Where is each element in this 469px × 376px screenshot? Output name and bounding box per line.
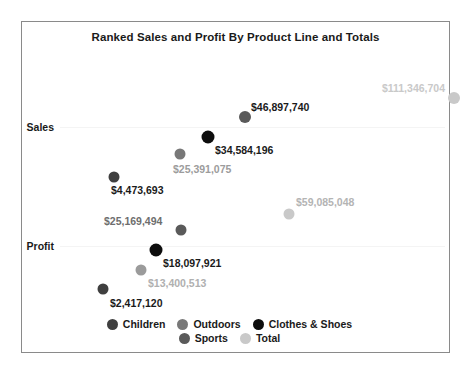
axis-label-profit: Profit — [22, 240, 54, 252]
data-point[interactable] — [448, 92, 460, 104]
data-point[interactable] — [284, 209, 295, 220]
axis-label-sales: Sales — [22, 121, 54, 133]
data-point-label: $18,097,921 — [163, 257, 221, 269]
data-point[interactable] — [176, 225, 187, 236]
legend-label: Total — [256, 332, 280, 344]
chart-container: Ranked Sales and Profit By Product Line … — [21, 21, 450, 353]
legend-item-children[interactable]: Children — [107, 318, 166, 330]
data-point-label: $2,417,120 — [110, 297, 163, 309]
data-point[interactable] — [202, 131, 215, 144]
legend-label: Outdoors — [193, 318, 240, 330]
data-point-label: $59,085,048 — [296, 196, 354, 208]
data-point[interactable] — [136, 265, 147, 276]
data-point[interactable] — [239, 111, 251, 123]
plot-area: SalesProfit$46,897,740$111,346,704$34,58… — [22, 22, 449, 352]
legend-swatch-circle-icon — [177, 319, 188, 330]
data-point-label: $25,169,494 — [104, 215, 162, 227]
legend-item-outdoors[interactable]: Outdoors — [177, 318, 240, 330]
data-point[interactable] — [98, 284, 109, 295]
data-point-label: $4,473,693 — [111, 184, 164, 196]
legend-swatch-circle-icon — [240, 333, 251, 344]
data-point-label: $111,346,704 — [382, 82, 445, 94]
data-point-label: $34,584,196 — [215, 144, 273, 156]
data-point-label: $46,897,740 — [251, 101, 309, 113]
legend-label: Children — [123, 318, 166, 330]
data-point-label: $25,391,075 — [173, 163, 231, 175]
legend-item-clothes-shoes[interactable]: Clothes & Shoes — [253, 318, 352, 330]
legend-label: Clothes & Shoes — [269, 318, 352, 330]
data-point[interactable] — [175, 149, 186, 160]
legend-label: Sports — [195, 332, 228, 344]
gridline-sales — [60, 127, 445, 128]
gridline-profit — [60, 246, 445, 247]
legend-swatch-circle-icon — [107, 319, 118, 330]
legend-swatch-circle-icon — [179, 333, 190, 344]
data-point[interactable] — [109, 172, 120, 183]
legend-item-total[interactable]: Total — [240, 332, 280, 344]
legend-swatch-circle-icon — [253, 319, 264, 330]
data-point[interactable] — [150, 244, 163, 257]
legend-item-sports[interactable]: Sports — [179, 332, 228, 344]
data-point-label: $13,400,513 — [148, 277, 206, 289]
chart-legend: ChildrenOutdoorsClothes & ShoesSportsTot… — [86, 318, 386, 344]
